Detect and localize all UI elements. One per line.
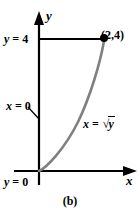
label-y-equals-4-value: = 4 (9, 32, 28, 46)
label-curve-equation: x = √y (83, 118, 115, 130)
label-x-equals-0-value: = 0 (12, 99, 31, 113)
label-point-2-4: (2,4) (101, 29, 124, 41)
figure-container: y = 4 (2,4) x = 0 y = 0 x = √y y x (b) (0, 0, 140, 216)
x-axis-label: x (126, 174, 133, 187)
radicand: y (108, 116, 114, 131)
label-y-equals-4: y = 4 (4, 33, 28, 45)
y-axis-arrowhead (34, 11, 44, 25)
radical-expression: √y (102, 118, 115, 130)
label-y-equals-0: y = 0 (4, 176, 28, 188)
figure-caption: (b) (0, 195, 140, 207)
curve-equation-equals: = (89, 117, 102, 131)
y-axis-label: y (46, 9, 52, 22)
curve-x-equals-sqrt-y (39, 41, 104, 171)
label-y-equals-0-value: = 0 (9, 175, 28, 189)
label-x-equals-0: x = 0 (6, 100, 31, 112)
